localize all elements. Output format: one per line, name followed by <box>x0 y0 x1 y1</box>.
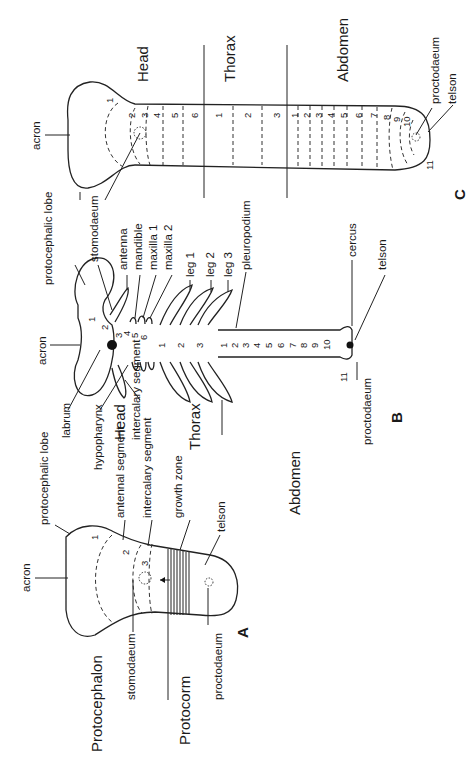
svg-text:5: 5 <box>263 343 274 348</box>
panel-c-acron-label: acron <box>30 121 42 150</box>
panel-a-acron-label: acron <box>20 563 32 592</box>
svg-text:7: 7 <box>368 113 379 118</box>
panel-a: 1 2 3 acron protocephalic lobe antennal … <box>20 417 251 752</box>
panel-b-protocephalic-lobe-label: protocephalic lobe <box>42 192 54 285</box>
svg-text:2: 2 <box>301 113 312 118</box>
svg-text:6: 6 <box>189 113 200 118</box>
panel-a-growth-zone <box>168 549 189 615</box>
panel-b-cercus-label: cercus <box>346 223 358 257</box>
svg-text:2: 2 <box>99 325 110 330</box>
svg-text:6: 6 <box>353 113 364 118</box>
svg-text:8: 8 <box>298 343 309 348</box>
panel-a-antennal-segment-label: antennal segment <box>114 426 126 518</box>
panel-a-protocephalon-label: Protocephalon <box>88 655 105 752</box>
svg-text:2: 2 <box>126 113 137 118</box>
panel-c-body-outline <box>68 82 430 188</box>
svg-text:10: 10 <box>401 116 412 127</box>
panel-b-leg-1-label: leg 1 <box>184 252 196 277</box>
svg-text:9: 9 <box>309 343 320 348</box>
svg-text:4: 4 <box>325 113 336 118</box>
panel-b-abdomen-numbers: 1 2 3 4 5 6 7 8 9 10 11 <box>218 339 349 382</box>
svg-text:10: 10 <box>321 339 332 350</box>
panel-b-letter: B <box>388 412 405 423</box>
panel-b-proctodaeum-label: proctodaeum <box>361 378 373 445</box>
panel-c-abdomen-label: Abdomen <box>334 18 351 82</box>
panel-b-stomodaeum-label: stomodaeum <box>88 196 100 262</box>
svg-text:1: 1 <box>218 343 229 348</box>
panel-c-head-label: Head <box>134 46 151 82</box>
svg-text:1: 1 <box>289 113 300 118</box>
svg-text:4: 4 <box>151 113 162 118</box>
svg-text:3: 3 <box>139 113 150 118</box>
panel-b-maxilla-1-label: maxilla 1 <box>147 225 159 270</box>
panel-b-labrum-label: labrum <box>60 403 72 438</box>
svg-text:2: 2 <box>175 343 186 348</box>
svg-text:11: 11 <box>424 160 435 170</box>
svg-text:2: 2 <box>229 343 240 348</box>
panel-b-antenna-label: antenna <box>117 228 129 270</box>
svg-text:3: 3 <box>139 561 150 566</box>
panel-a-intercalary-segment-label: intercalary segment <box>141 417 153 518</box>
panel-b-leg-2-label: leg 2 <box>204 252 216 277</box>
svg-text:3: 3 <box>313 113 324 118</box>
panel-b-leg-3-label: leg 3 <box>222 252 234 277</box>
svg-text:2: 2 <box>242 113 253 118</box>
svg-text:11: 11 <box>338 372 349 382</box>
panel-c-proctodaeum-label: proctodaeum <box>429 37 441 104</box>
panel-b-mandible-label: mandible <box>132 223 144 270</box>
panel-b-thorax-label: Thorax <box>186 403 203 450</box>
panel-a-growth-zone-label: growth zone <box>172 455 184 518</box>
panel-b: 1 2 3 4 5 6 1 2 3 1 2 3 4 5 6 <box>36 192 405 515</box>
panel-c-thorax-label: Thorax <box>221 35 238 82</box>
panel-a-stomodaeum-label: stomodaeum <box>125 634 137 700</box>
panel-b-acron-label: acron <box>36 336 48 365</box>
panel-a-protocephalic-lobe-label: protocephalic lobe <box>38 432 50 525</box>
panel-a-protocorm-label: Protocorm <box>176 676 193 745</box>
panel-a-letter: A <box>234 627 251 638</box>
panel-b-hypopharynx-label: hypopharynx <box>92 404 104 470</box>
panel-a-body-outline <box>66 526 238 636</box>
svg-text:4: 4 <box>251 343 262 348</box>
panel-b-abdomen-label: Abdomen <box>286 451 303 515</box>
panel-c: acron 1 2 3 4 5 6 Head 1 2 3 Thorax <box>30 18 468 200</box>
svg-text:1: 1 <box>156 343 167 348</box>
svg-text:3: 3 <box>240 343 251 348</box>
svg-text:7: 7 <box>287 343 298 348</box>
panel-c-telson-label: telson <box>446 73 458 104</box>
panel-b-telson-label: telson <box>376 239 388 270</box>
panel-a-proctodaeum-label: proctodaeum <box>212 633 224 700</box>
svg-text:1: 1 <box>104 98 115 103</box>
panel-c-letter: C <box>451 189 468 200</box>
svg-text:6: 6 <box>275 343 286 348</box>
panel-b-maxilla-2-label: maxilla 2 <box>162 225 174 270</box>
svg-text:1: 1 <box>89 535 100 540</box>
svg-text:1: 1 <box>86 317 97 322</box>
svg-text:1: 1 <box>213 113 224 118</box>
svg-text:3: 3 <box>271 113 282 118</box>
svg-text:6: 6 <box>138 335 149 340</box>
svg-text:5: 5 <box>169 113 180 118</box>
figure-canvas: acron 1 2 3 4 5 6 Head 1 2 3 Thorax <box>0 0 471 780</box>
panel-a-telson-label: telson <box>215 501 227 532</box>
svg-text:3: 3 <box>194 343 205 348</box>
panel-b-pleuropodium-label: pleuropodium <box>240 200 252 270</box>
panel-b-stomodaeum-dot <box>107 340 117 350</box>
svg-text:2: 2 <box>120 550 131 555</box>
svg-text:5: 5 <box>338 113 349 118</box>
